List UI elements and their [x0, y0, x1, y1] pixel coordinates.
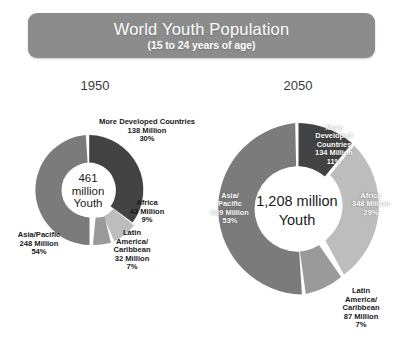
chart-year-label-1950: 1950: [60, 79, 130, 93]
label-africa-2050-percent: 29%: [341, 209, 401, 217]
donut-1950-hub: [62, 164, 115, 217]
label-asia-1950-percent: 54%: [2, 248, 76, 257]
label-africa-1950: Africa 43 Million 9%: [118, 199, 176, 225]
label-mdc-2050-percent: 11%: [296, 158, 372, 166]
label-lac-1950-percent: 7%: [100, 263, 164, 272]
label-lac-2050-percent: 7%: [328, 321, 394, 330]
label-mdc-1950-percent: 30%: [83, 135, 211, 144]
label-asia-pacific-2050: Asia/ Pacific 639 Million 53%: [200, 192, 260, 226]
chart-year-label-2050: 2050: [263, 79, 333, 93]
label-asia-2050-percent: 53%: [200, 217, 260, 225]
label-africa-1950-percent: 9%: [118, 216, 176, 225]
figure-title-banner: World Youth Population (15 to 24 years o…: [28, 13, 375, 58]
label-more-developed-countries-1950: More Developed Countries 138 Million 30%: [83, 118, 211, 144]
label-more-developed-countries-2050: More Developed Countries 134 Million 11%: [296, 124, 372, 166]
label-latin-america-caribbean-2050: Latin America/ Caribbean 87 Million 7%: [328, 287, 394, 330]
figure-canvas: World Youth Population (15 to 24 years o…: [0, 0, 409, 341]
donut-2050-hub: [255, 167, 340, 252]
label-africa-2050: Africa 348 Million 29%: [341, 192, 401, 217]
label-latin-america-caribbean-1950: Latin America/ Caribbean 32 Million 7%: [100, 229, 164, 272]
figure-subtitle: (15 to 24 years of age): [148, 39, 256, 52]
figure-title: World Youth Population: [114, 20, 290, 38]
label-asia-pacific-1950: Asia/Pacific 248 Million 54%: [2, 231, 76, 257]
